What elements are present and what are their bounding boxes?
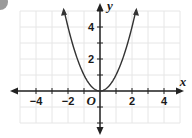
curve-left-arrow-icon — [61, 8, 67, 16]
x-tick-label: −4 — [30, 95, 43, 107]
y-tick-label: 4 — [88, 21, 95, 33]
x-axis-label: x — [179, 74, 187, 89]
origin-label: O — [87, 93, 97, 108]
y-tick-label: 2 — [88, 53, 94, 65]
tick-labels: −4−22424Oxy — [30, 0, 187, 108]
x-tick-label: −2 — [62, 95, 75, 107]
parabola-graph: −4−22424Oxy — [0, 0, 192, 138]
y-axis-label: y — [105, 0, 113, 13]
x-tick-label: 4 — [161, 95, 168, 107]
x-tick-label: 2 — [129, 95, 135, 107]
curve-right-arrow-icon — [133, 8, 139, 16]
y-axis-up-arrow-icon — [97, 3, 104, 11]
y-axis-down-arrow-icon — [97, 127, 104, 135]
x-axis-left-arrow-icon — [10, 88, 18, 95]
